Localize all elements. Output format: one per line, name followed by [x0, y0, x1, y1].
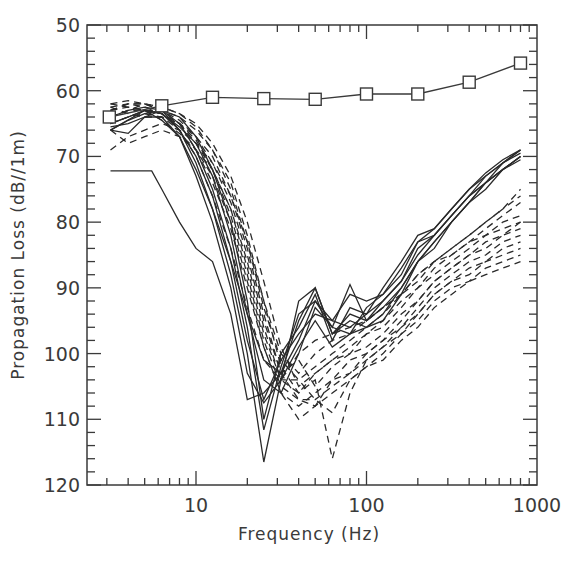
square-marker-icon [515, 57, 527, 69]
y-tick-label: 80 [56, 211, 80, 233]
dashed-curve [111, 124, 521, 374]
propagation-loss-chart: 5060708090100110120 101001000 Frequency … [0, 0, 566, 563]
x-axis-tick-labels: 101001000 [184, 494, 561, 516]
square-marker-icon [103, 111, 115, 123]
x-tick-label: 1000 [513, 494, 561, 516]
y-axis-title: Propagation Loss (dB//1m) [8, 130, 28, 380]
y-tick-label: 100 [44, 343, 80, 365]
dashed-curve [111, 110, 521, 399]
dashed-curve [111, 130, 521, 393]
dashed-curve [111, 104, 521, 387]
dashed-curve [111, 101, 521, 407]
solid-curve [111, 110, 521, 399]
square-marker-icon [463, 76, 475, 88]
dashed-curve [111, 114, 521, 380]
reference-series-square-markers [103, 57, 526, 123]
x-axis-title: Frequency (Hz) [238, 524, 380, 544]
square-marker-icon [258, 93, 270, 105]
square-marker-icon [207, 91, 219, 103]
y-tick-label: 110 [44, 408, 80, 430]
square-marker-icon [361, 88, 373, 100]
dashed-curve [111, 104, 521, 406]
solid-curve [111, 110, 521, 393]
solid-curve [111, 117, 521, 403]
y-tick-label: 70 [56, 145, 80, 167]
y-tick-label: 90 [56, 277, 80, 299]
y-tick-label: 60 [56, 80, 80, 102]
solid-curve [111, 110, 521, 462]
data-curves [111, 101, 521, 462]
x-tick-label: 10 [184, 494, 208, 516]
y-axis-tick-labels: 5060708090100110120 [44, 14, 80, 496]
reference-line [109, 63, 520, 117]
square-marker-icon [412, 88, 424, 100]
y-tick-label: 50 [56, 14, 80, 36]
y-tick-label: 120 [44, 474, 80, 496]
square-marker-icon [156, 100, 168, 112]
dashed-curve [111, 104, 521, 387]
dashed-curve [111, 104, 521, 380]
x-tick-label: 100 [348, 494, 384, 516]
square-marker-icon [309, 93, 321, 105]
solid-curve [111, 110, 521, 373]
